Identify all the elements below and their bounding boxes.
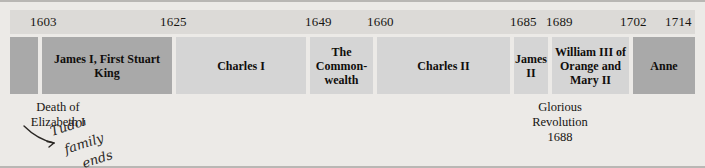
- date-label-1660: 1660: [367, 14, 394, 30]
- reign-block-pre-stuart: [10, 37, 38, 94]
- reign-block-anne: Anne: [633, 37, 695, 94]
- reign-label-james-ii: James II: [515, 52, 547, 80]
- reign-label-charles-i: Charles I: [217, 59, 265, 73]
- date-label-1689: 1689: [546, 14, 573, 30]
- reign-label-william-and-mary: William III of Orange and Mary II: [554, 45, 627, 87]
- date-label-1702: 1702: [620, 14, 647, 30]
- date-label-1685: 1685: [510, 14, 537, 30]
- date-label-1649: 1649: [305, 14, 332, 30]
- reign-block-charles-i: Charles I: [176, 37, 306, 94]
- reign-label-anne: Anne: [650, 59, 677, 73]
- reign-block-charles-ii: Charles II: [377, 37, 510, 94]
- svg-text:ends: ends: [80, 147, 114, 168]
- date-strip: 16031625164916601685168917021714: [10, 10, 695, 34]
- reign-block-james-ii: James II: [514, 37, 548, 94]
- reign-block-william-and-mary: William III of Orange and Mary II: [552, 37, 629, 94]
- stuart-monarchs-timeline: 16031625164916601685168917021714 James I…: [0, 0, 705, 168]
- annotation-glorious-revolution: Glorious Revolution 1688: [500, 100, 620, 145]
- reign-band: James I, First Stuart KingCharles IThe C…: [10, 37, 695, 94]
- reign-label-james-i: James I, First Stuart King: [44, 52, 170, 80]
- date-label-1603: 1603: [30, 14, 57, 30]
- reign-block-james-i: James I, First Stuart King: [42, 37, 172, 94]
- date-label-1625: 1625: [160, 14, 187, 30]
- reign-block-commonwealth: The Common- wealth: [310, 37, 373, 94]
- reign-label-charles-ii: Charles II: [417, 59, 469, 73]
- handwritten-arrow-icon: [22, 124, 72, 150]
- date-label-1714: 1714: [665, 14, 692, 30]
- reign-label-commonwealth: The Common- wealth: [312, 45, 371, 87]
